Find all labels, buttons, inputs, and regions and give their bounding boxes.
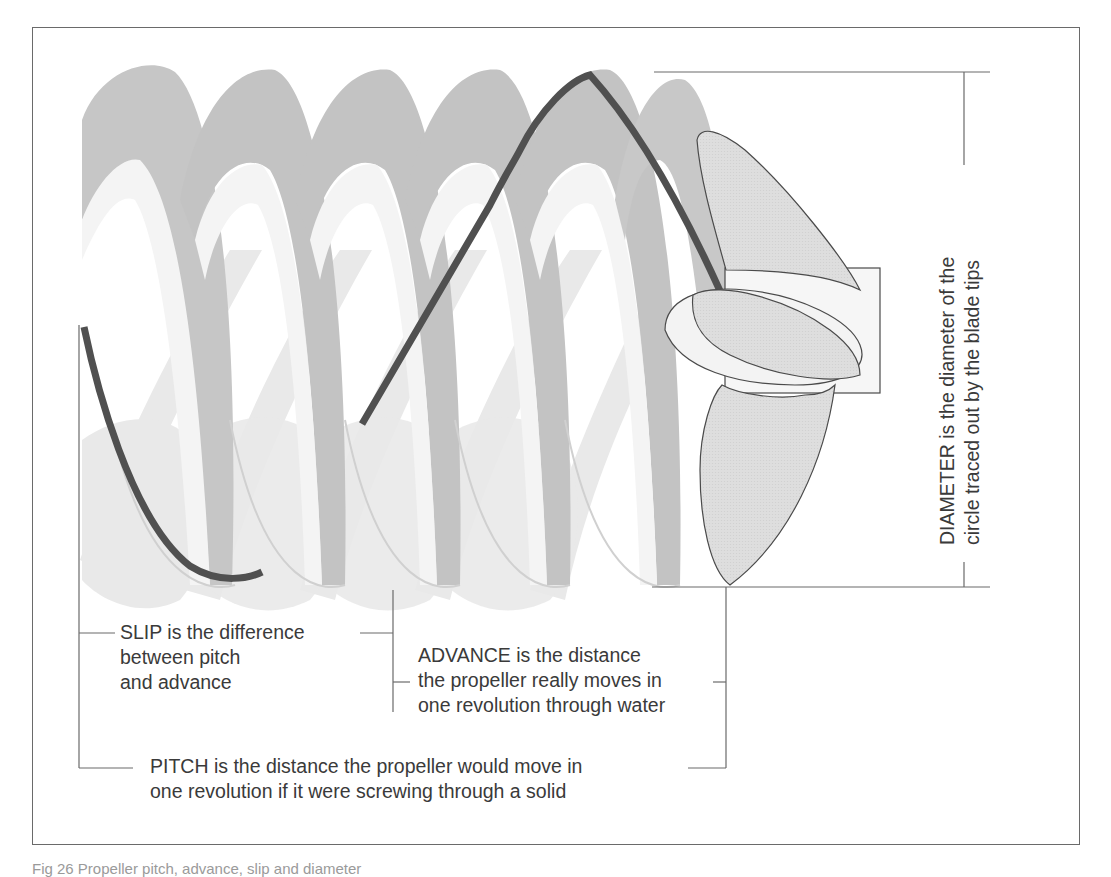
advance-label-line-3: one revolution through water bbox=[418, 693, 665, 718]
figure-caption: Fig 26 Propeller pitch, advance, slip an… bbox=[32, 860, 361, 877]
slip-label-line-1: SLIP is the difference bbox=[120, 620, 305, 645]
advance-label-line-1: ADVANCE is the distance bbox=[418, 643, 665, 668]
propeller-blade-bottom bbox=[700, 385, 835, 585]
pitch-label: PITCH is the distance the propeller woul… bbox=[150, 754, 582, 804]
slip-label-line-3: and advance bbox=[120, 670, 305, 695]
diameter-label-line-1: DIAMETER is the diameter of the bbox=[935, 257, 960, 545]
diameter-label: DIAMETER is the diameter of the circle t… bbox=[935, 257, 985, 545]
pitch-label-line-1: PITCH is the distance the propeller woul… bbox=[150, 754, 582, 779]
slip-label-line-2: between pitch bbox=[120, 645, 305, 670]
slip-label: SLIP is the difference between pitch and… bbox=[120, 620, 305, 695]
diameter-label-line-2: circle traced out by the blade tips bbox=[960, 257, 985, 545]
pitch-label-line-2: one revolution if it were screwing throu… bbox=[150, 779, 582, 804]
advance-label: ADVANCE is the distance the propeller re… bbox=[418, 643, 665, 718]
advance-label-line-2: the propeller really moves in bbox=[418, 668, 665, 693]
